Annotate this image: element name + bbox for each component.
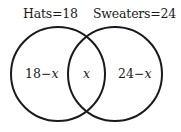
hats-only-operator: −: [41, 66, 51, 81]
sweaters-only-operator: −: [134, 66, 144, 81]
sweaters-only-number: 24: [118, 66, 134, 81]
sweaters-only-variable: x: [144, 66, 151, 81]
intersection-variable: x: [83, 66, 90, 81]
intersection-region-label: x: [83, 66, 90, 82]
sweaters-set-title: Sweaters=24: [93, 6, 176, 22]
hats-only-number: 18: [25, 66, 41, 81]
hats-only-region-label: 18−x: [25, 66, 58, 82]
hats-only-variable: x: [51, 66, 58, 81]
sweaters-only-region-label: 24−x: [118, 66, 151, 82]
hats-set-title: Hats=18: [23, 6, 78, 22]
venn-diagram: Hats=18 Sweaters=24 18−x x 24−x: [0, 0, 181, 132]
